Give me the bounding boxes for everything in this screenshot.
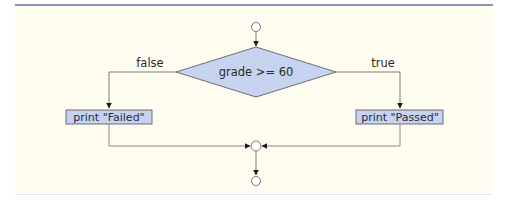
edge-false [109,72,176,108]
flowchart: grade >= 60 false true print "Failed" pr… [0,0,508,206]
edge-true [336,72,400,108]
action-failed-label: print "Failed" [73,111,144,124]
start-node [252,23,261,32]
merge-node [251,141,261,151]
edge-passed-merge [262,124,400,146]
end-node [252,177,261,186]
decision-label: grade >= 60 [219,65,294,79]
true-label: true [371,56,395,70]
false-label: false [136,56,163,70]
action-passed-label: print "Passed" [361,111,439,124]
edge-failed-merge [109,124,250,146]
